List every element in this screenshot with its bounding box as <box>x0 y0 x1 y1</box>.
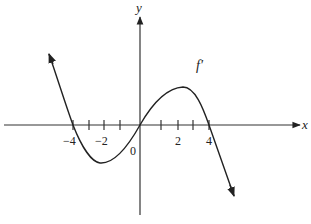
origin-label: 0 <box>130 144 136 158</box>
x-axis-label: x <box>301 117 308 132</box>
curve-left-arrow-icon <box>49 54 53 64</box>
function-label: f′ <box>196 58 204 73</box>
y-axis-label: y <box>134 0 142 15</box>
tick-label-2: 2 <box>175 134 181 148</box>
derivative-graph: −4 −2 2 4 0 x y f′ <box>0 0 311 224</box>
tick-label-neg2: −2 <box>95 134 108 148</box>
curve-right-arrow-icon <box>230 185 234 196</box>
tick-label-neg4: −4 <box>63 134 76 148</box>
tick-label-4: 4 <box>206 134 212 148</box>
